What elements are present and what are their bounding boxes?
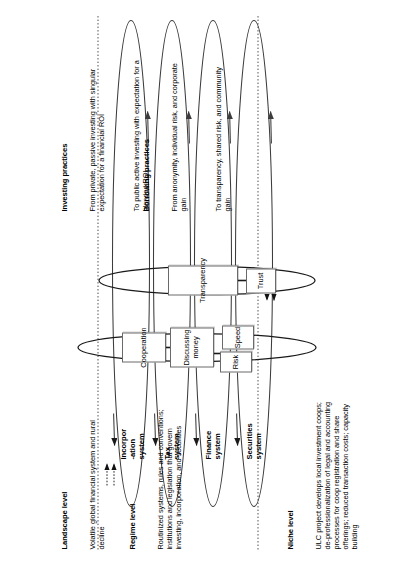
borrowing-practices-block: Borrowing practices From anonymity, indi… xyxy=(122,51,251,211)
borrowing-practices-from: From anonymity, individual risk, and cor… xyxy=(170,51,188,211)
node-box-cooperation: Cooperation xyxy=(122,332,166,362)
landscape-level-body: Volatile global financial system and rur… xyxy=(88,399,106,549)
regime-level-title: Regime level xyxy=(128,399,137,549)
niche-level-block: Niche level ULC project develops local i… xyxy=(266,399,379,549)
system-label-securities: Securities system xyxy=(246,423,264,459)
node-box-transparency: Transparency xyxy=(168,265,238,295)
node-box-risk: Risk xyxy=(220,351,252,372)
regime-level-block: Regime level Routinized systems, rules a… xyxy=(108,399,203,549)
node-box-discussing-money: Discussing money xyxy=(170,327,214,367)
borrowing-practices-to: To transparency, shared risk, and commun… xyxy=(214,51,232,211)
niche-level-body: ULC project develops local investment co… xyxy=(314,399,359,549)
niche-level-title: Niche level xyxy=(286,399,295,549)
diagram-canvas: Incorpor -ation system Tax system Financ… xyxy=(0,0,406,563)
node-box-trust: Trust xyxy=(246,268,276,293)
system-label-finance: Finance system xyxy=(205,430,223,459)
regime-level-body: Routinized systems, rules and convention… xyxy=(156,399,183,549)
node-box-speed: Speed xyxy=(222,325,254,349)
landscape-level-title: Landscape level xyxy=(60,399,69,549)
borrowing-practices-title: Borrowing practices xyxy=(142,51,151,211)
investing-practices-title: Investing practices xyxy=(60,51,69,211)
investing-practices-from: From private, passive investing with sin… xyxy=(88,51,106,211)
